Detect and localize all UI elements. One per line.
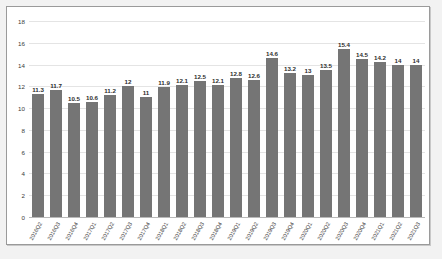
bar-value-label: 12.6 (248, 72, 260, 79)
x-axis-tick-label: 2020Q4 (352, 221, 367, 241)
bar (176, 85, 187, 217)
bar-item: 14.6 (263, 21, 281, 217)
bar-value-label: 12.1 (176, 77, 188, 84)
bar-item: 14 (389, 21, 407, 217)
bar-value-label: 11 (143, 89, 150, 96)
x-axis-tick: 2020Q1 (299, 218, 317, 259)
plot-area: 024681012141618 11.311.710.510.611.21211… (29, 21, 425, 217)
x-axis-tick: 2021Q2 (389, 218, 407, 259)
bar-value-label: 14.6 (266, 50, 278, 57)
y-axis-tick-label: 10 (18, 105, 25, 112)
y-axis-tick-label: 12 (18, 83, 25, 90)
x-axis-tick-label: 2017Q4 (136, 221, 151, 241)
x-axis-tick-label: 2017Q1 (82, 221, 97, 241)
x-axis-tick: 2016Q4 (65, 218, 83, 259)
bar (356, 59, 367, 217)
bar-value-label: 14.5 (356, 51, 368, 58)
bar (374, 62, 385, 217)
x-axis-tick: 2019Q3 (263, 218, 281, 259)
bar (122, 86, 133, 217)
bar-value-label: 14 (413, 57, 420, 64)
bar-item: 11.3 (29, 21, 47, 217)
bar-value-label: 11.2 (104, 87, 116, 94)
bar (410, 65, 421, 217)
x-axis-tick-label: 2021Q2 (388, 221, 403, 241)
bar (32, 94, 43, 217)
x-axis-tick: 2020Q2 (317, 218, 335, 259)
bar-item: 13.5 (317, 21, 335, 217)
x-axis-tick-label: 2019Q1 (226, 221, 241, 241)
bar-item: 12.8 (227, 21, 245, 217)
x-axis-tick-label: 2016Q3 (46, 221, 61, 241)
bar (50, 90, 61, 217)
x-axis-tick: 2019Q2 (245, 218, 263, 259)
bar (266, 58, 277, 217)
x-axis-tick: 2021Q3 (407, 218, 425, 259)
bar-item: 13.2 (281, 21, 299, 217)
x-axis-tick-label: 2017Q2 (100, 221, 115, 241)
x-axis-labels: 2016Q22016Q32016Q42017Q12017Q22017Q32017… (29, 218, 425, 259)
bar-item: 15.4 (335, 21, 353, 217)
x-axis-tick-label: 2018Q3 (190, 221, 205, 241)
x-axis-tick: 2019Q1 (227, 218, 245, 259)
x-axis-tick-label: 2021Q3 (406, 221, 421, 241)
bar-item: 14 (407, 21, 425, 217)
bar (86, 102, 97, 217)
bar (140, 97, 151, 217)
bar-item: 14.2 (371, 21, 389, 217)
chart-container: 024681012141618 11.311.710.510.611.21211… (6, 6, 430, 245)
y-axis-tick-label: 2 (22, 192, 25, 199)
bar (194, 81, 205, 217)
x-axis-tick: 2018Q1 (155, 218, 173, 259)
bar-item: 12.1 (209, 21, 227, 217)
bar-item: 12 (119, 21, 137, 217)
bar (230, 78, 241, 217)
x-axis-tick: 2020Q3 (335, 218, 353, 259)
bar (320, 70, 331, 217)
x-axis-tick: 2016Q2 (29, 218, 47, 259)
bar (68, 103, 79, 217)
x-axis-tick: 2020Q4 (353, 218, 371, 259)
x-axis-tick: 2018Q3 (191, 218, 209, 259)
bar-item: 11.9 (155, 21, 173, 217)
y-axis-tick-label: 14 (18, 61, 25, 68)
y-axis-tick-label: 16 (18, 39, 25, 46)
y-axis-tick-label: 0 (22, 214, 25, 221)
x-axis-tick-label: 2018Q2 (172, 221, 187, 241)
x-axis-tick: 2018Q2 (173, 218, 191, 259)
bar-value-label: 12.5 (194, 73, 206, 80)
x-axis-tick-label: 2019Q2 (244, 221, 259, 241)
bar (158, 87, 169, 217)
x-axis-tick: 2016Q3 (47, 218, 65, 259)
bar-item: 12.5 (191, 21, 209, 217)
bar-item: 14.5 (353, 21, 371, 217)
bar (392, 65, 403, 217)
bar (104, 95, 115, 217)
y-axis-tick-label: 6 (22, 148, 25, 155)
x-axis-tick-label: 2016Q4 (64, 221, 79, 241)
bar (212, 85, 223, 217)
bar (248, 80, 259, 217)
bar-value-label: 13.5 (320, 62, 332, 69)
x-axis-tick-label: 2019Q3 (262, 221, 277, 241)
bar-value-label: 12 (125, 78, 132, 85)
x-axis-tick: 2018Q4 (209, 218, 227, 259)
bar-series: 11.311.710.510.611.2121111.912.112.512.1… (29, 21, 425, 217)
bar-item: 11.2 (101, 21, 119, 217)
y-axis-tick-label: 8 (22, 126, 25, 133)
bar-item: 13 (299, 21, 317, 217)
bar-value-label: 10.5 (68, 95, 80, 102)
bar-value-label: 15.4 (338, 41, 350, 48)
bar-item: 11.7 (47, 21, 65, 217)
y-axis-tick-label: 18 (18, 18, 25, 25)
bar-value-label: 13.2 (284, 65, 296, 72)
bar-value-label: 13 (305, 67, 312, 74)
y-axis-tick-label: 4 (22, 170, 25, 177)
bar-value-label: 10.6 (86, 94, 98, 101)
x-axis-tick: 2021Q1 (371, 218, 389, 259)
x-axis-tick-label: 2020Q1 (298, 221, 313, 241)
bar-value-label: 14 (395, 57, 402, 64)
x-axis-tick-label: 2020Q2 (316, 221, 331, 241)
bar-item: 10.5 (65, 21, 83, 217)
x-axis-tick-label: 2018Q4 (208, 221, 223, 241)
